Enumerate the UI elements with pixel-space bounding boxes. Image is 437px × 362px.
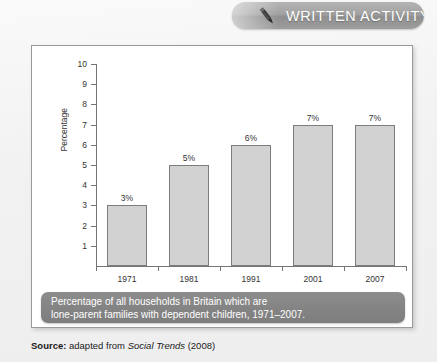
chart-card: Percentage 12345678910 3%5%6%7%7% 197119…: [31, 45, 413, 328]
y-tick: [91, 104, 97, 105]
pen-icon: [256, 5, 278, 27]
x-tick: [96, 266, 97, 271]
y-tick-label-holder: 1: [65, 246, 87, 247]
bar: [355, 125, 395, 266]
y-tick: [91, 84, 97, 85]
bar-value-label: 7%: [355, 113, 395, 123]
source-label: Source:: [31, 340, 66, 351]
y-tick: [91, 125, 97, 126]
y-tick-label-holder: 7: [65, 125, 87, 126]
written-activity-banner: WRITTEN ACTIVITY: [232, 2, 424, 29]
y-tick-label: 6: [67, 140, 87, 150]
y-tick-label: 4: [67, 180, 87, 190]
x-axis-line: [96, 266, 406, 267]
y-tick-label: 2: [67, 221, 87, 231]
x-tick-label: 1971: [102, 274, 152, 284]
page-root: WRITTEN ACTIVITY Percentage 12345678910 …: [0, 0, 437, 362]
x-tick: [158, 266, 159, 271]
chart-caption: Percentage of all households in Britain …: [41, 292, 405, 323]
y-tick: [91, 205, 97, 206]
y-tick-label-holder: 4: [65, 185, 87, 186]
y-tick-label: 7: [67, 120, 87, 130]
bar-chart: Percentage 12345678910 3%5%6%7%7% 197119…: [32, 46, 414, 289]
y-tick: [91, 165, 97, 166]
caption-line-2: lone-parent families with dependent chil…: [51, 309, 395, 322]
bar-value-label: 5%: [169, 153, 209, 163]
y-tick: [91, 64, 97, 65]
y-tick-label: 5: [67, 160, 87, 170]
bar: [169, 165, 209, 266]
y-tick-label: 8: [67, 99, 87, 109]
y-tick-label-holder: 3: [65, 205, 87, 206]
x-tick: [344, 266, 345, 271]
y-tick-label: 1: [67, 241, 87, 251]
x-tick: [282, 266, 283, 271]
y-tick: [91, 185, 97, 186]
source-publication: Social Trends: [128, 340, 185, 351]
source-text-before: adapted from: [66, 340, 127, 351]
y-tick-label-holder: 9: [65, 84, 87, 85]
x-tick-label: 1991: [226, 274, 276, 284]
banner-title: WRITTEN ACTIVITY: [286, 8, 424, 24]
source-text-after: (2008): [185, 340, 215, 351]
x-tick-label: 2001: [288, 274, 338, 284]
x-tick-label: 2007: [350, 274, 400, 284]
y-tick-label-holder: 2: [65, 226, 87, 227]
y-tick-label-holder: 5: [65, 165, 87, 166]
bar-value-label: 3%: [107, 193, 147, 203]
bar-value-label: 7%: [293, 113, 333, 123]
x-tick: [406, 266, 407, 271]
bar-value-label: 6%: [231, 133, 271, 143]
bar: [107, 205, 147, 266]
y-tick-label: 9: [67, 79, 87, 89]
x-tick-label: 1981: [164, 274, 214, 284]
x-tick: [220, 266, 221, 271]
source-line: Source: adapted from Social Trends (2008…: [31, 340, 215, 351]
bar: [231, 145, 271, 266]
caption-line-1: Percentage of all households in Britain …: [51, 296, 395, 309]
y-tick-label-holder: 6: [65, 145, 87, 146]
y-tick-label-holder: 10: [65, 64, 87, 65]
y-tick-label-holder: 8: [65, 104, 87, 105]
bar: [293, 125, 333, 266]
y-tick: [91, 145, 97, 146]
y-tick-label: 3: [67, 200, 87, 210]
y-tick: [91, 226, 97, 227]
y-tick: [91, 246, 97, 247]
y-tick-label: 10: [67, 59, 87, 69]
